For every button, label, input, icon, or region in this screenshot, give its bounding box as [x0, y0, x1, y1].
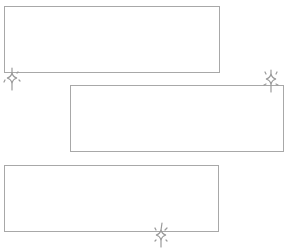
- box-top: [4, 6, 220, 73]
- box-bottom: [4, 165, 219, 232]
- box-middle: [70, 85, 284, 152]
- sparkle-icon-middle-right: [260, 68, 282, 94]
- sparkle-icon-top-left: [1, 66, 23, 92]
- sparkle-icon-bottom-center: [150, 222, 172, 248]
